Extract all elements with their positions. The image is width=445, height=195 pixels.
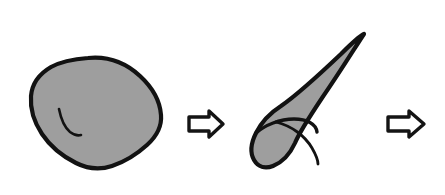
step-1-rounded-lump bbox=[31, 58, 161, 169]
arrow-step-one-to-two bbox=[189, 111, 223, 137]
illustration-canvas: Clay shaping sequence Hand-drawn sequenc… bbox=[0, 0, 445, 195]
hollow-cone-fill bbox=[252, 34, 364, 167]
arrow-step-two-to-next bbox=[388, 111, 424, 137]
clay-sequence-figure bbox=[0, 0, 445, 195]
right-arrow-icon bbox=[189, 111, 223, 137]
right-arrow-icon bbox=[388, 111, 424, 137]
step-2-hollow-cone bbox=[252, 34, 364, 167]
